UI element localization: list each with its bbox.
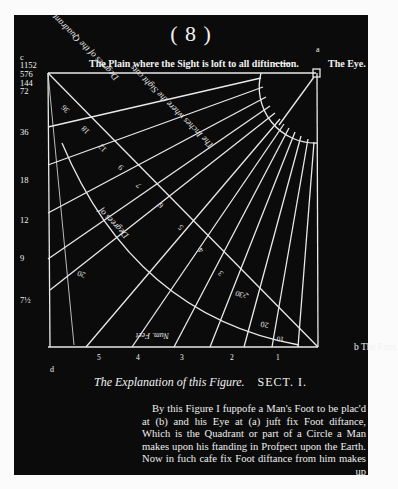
svg-text:20: 20: [260, 320, 269, 330]
svg-text:5: 5: [176, 223, 185, 232]
body-line: makes upon his ftanding in Profpect upon…: [142, 441, 366, 454]
degree-arc: [62, 143, 299, 345]
header-dots: -----: [274, 57, 291, 68]
eye-point-label: a: [316, 45, 320, 54]
body-line: By this Figure I fuppofe a Man's Foot to…: [142, 403, 366, 416]
svg-text:30: 30: [234, 288, 245, 299]
page-number: ( 8 ): [14, 21, 368, 47]
bottom-scale-value: 5: [97, 353, 101, 362]
svg-text:20: 20: [76, 268, 87, 279]
svg-text:18: 18: [79, 124, 91, 136]
body-line: up: [142, 466, 366, 479]
diagonal-label: 36: [59, 103, 71, 115]
left-scale-value: 9: [20, 253, 24, 263]
left-scale-value: 36: [20, 127, 29, 137]
body-line: Now in fuch cafe fix Foot diftance from …: [142, 453, 366, 466]
caption-italic: The Explanation of this Figure.: [94, 375, 245, 389]
left-scale-value: 12: [20, 215, 29, 225]
foot-label: b The Foot.: [354, 342, 398, 352]
svg-text:9: 9: [116, 163, 125, 172]
svg-text:7: 7: [134, 181, 143, 190]
header-caption: The Plain where the Sight is loft to all…: [89, 58, 299, 69]
bottom-scale-value: 4: [136, 353, 140, 362]
body-paragraph: By this Figure I fuppofe a Man's Foot to…: [142, 403, 366, 479]
left-line: [48, 73, 50, 347]
svg-text:The Inches where the Sight cut: The Inches where the Sight cuts: [127, 63, 215, 151]
svg-text:10: 10: [276, 334, 284, 343]
section-caption: The Explanation of this Figure. SECT. I.: [94, 375, 307, 390]
bottom-scale-value: 1: [276, 353, 280, 362]
section-title: SECT. I.: [258, 375, 307, 389]
left-scale-value: 18: [20, 175, 29, 185]
bottom-scale-value: 3: [180, 353, 184, 362]
body-line: at (b) and his Eye at (a) juft fix Foot …: [142, 416, 366, 429]
body-line: Which is the Quadrant or part of a Circl…: [142, 428, 366, 441]
left-scale-value: 7½: [20, 295, 31, 305]
eye-label: The Eye.: [328, 58, 366, 69]
right-line: [317, 73, 318, 347]
scanned-page: 36 18 12 9 7 6 5 4 3 2 The Inches where …: [14, 15, 368, 475]
bottom-left-label: d: [50, 365, 54, 374]
svg-text:Num. Feet: Num. Feet: [135, 331, 170, 340]
svg-text:3: 3: [216, 269, 225, 278]
bottom-scale-value: 2: [230, 353, 234, 362]
left-scale-value: 72: [20, 86, 29, 96]
